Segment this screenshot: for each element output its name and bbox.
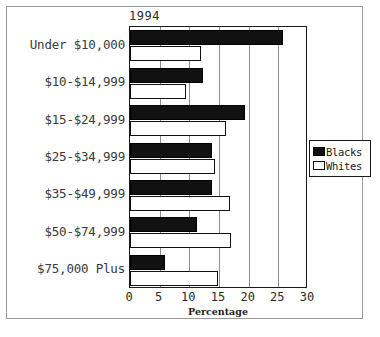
x-tick-label-0: 0 [125, 290, 132, 304]
category-label-6: $75,000 Plus [3, 261, 125, 276]
bar-blacks-6 [130, 255, 165, 270]
bar-whites-1 [130, 84, 186, 99]
x-tick-label-20: 20 [240, 290, 254, 304]
plot-area [129, 26, 307, 288]
bar-whites-3 [130, 159, 215, 174]
bar-blacks-5 [130, 217, 197, 232]
legend-entry-blacks: Blacks [313, 145, 367, 158]
chart-figure: 1994 Under $10,000$10-$14,999$15-$24,999… [0, 0, 380, 337]
legend-swatch-whites [313, 161, 325, 170]
legend-label-blacks: Blacks [326, 146, 362, 158]
bar-whites-0 [130, 46, 201, 61]
x-tick-label-30: 30 [300, 290, 314, 304]
bar-whites-4 [130, 196, 230, 211]
x-axis-title: Percentage [129, 306, 307, 317]
bar-whites-5 [130, 233, 231, 248]
category-axis-labels: Under $10,000$10-$14,999$15-$24,999$25-$… [0, 26, 125, 288]
bar-whites-6 [130, 271, 218, 286]
x-tick-label-5: 5 [155, 290, 162, 304]
bar-blacks-3 [130, 143, 212, 158]
chart-title: 1994 [129, 9, 160, 23]
category-label-5: $50-$74,999 [3, 224, 125, 239]
bar-whites-2 [130, 121, 226, 136]
x-tick-label-10: 10 [181, 290, 195, 304]
category-label-0: Under $10,000 [3, 37, 125, 52]
bar-blacks-1 [130, 68, 203, 83]
x-tick-label-15: 15 [211, 290, 225, 304]
legend-entry-whites: Whites [313, 159, 367, 172]
category-label-3: $25-$34,999 [3, 149, 125, 164]
category-label-2: $15-$24,999 [3, 112, 125, 127]
legend-swatch-blacks [313, 147, 325, 156]
x-axis-tick-labels: 051015202530 [129, 290, 307, 306]
x-tick-label-25: 25 [270, 290, 284, 304]
category-label-1: $10-$14,999 [3, 74, 125, 89]
chart-legend: BlacksWhites [309, 140, 371, 177]
bar-blacks-2 [130, 105, 245, 120]
legend-label-whites: Whites [326, 160, 362, 172]
bar-blacks-4 [130, 180, 212, 195]
category-label-4: $35-$49,999 [3, 186, 125, 201]
bar-blacks-0 [130, 30, 283, 45]
bars-layer [130, 27, 306, 287]
